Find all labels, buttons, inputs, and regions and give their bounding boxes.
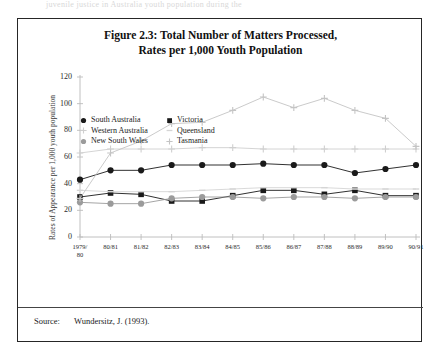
data-point [352, 146, 359, 153]
data-point [413, 194, 419, 200]
legend-item-queensland: Queensland [166, 126, 215, 137]
data-point [199, 194, 205, 200]
series-line [80, 97, 416, 198]
x-tick-label-part: 80 [77, 251, 84, 258]
source-note: Source:Wundersitz, J. (1993). [34, 316, 149, 326]
data-point [230, 162, 236, 168]
figure-title-line-1: Figure 2.3: Total Number of Matters Proc… [18, 28, 423, 43]
data-point [291, 162, 297, 168]
figure-page: juvenile justice in Australia youth popu… [0, 0, 439, 358]
figure-frame: Figure 2.3: Total Number of Matters Proc… [17, 18, 422, 342]
data-point [413, 162, 419, 168]
data-point [138, 192, 144, 198]
figure-title: Figure 2.3: Total Number of Matters Proc… [18, 28, 423, 58]
legend-label: Victoria [177, 115, 203, 126]
x-tick-label: 89/90 [370, 243, 400, 251]
data-point [352, 170, 358, 176]
series-line [80, 197, 416, 204]
legend-label: South Australia [91, 115, 141, 126]
y-tick-label: 100 [46, 99, 72, 108]
data-point [321, 146, 328, 153]
x-tick-label: 82/83 [157, 243, 187, 251]
plus-icon [166, 138, 173, 145]
x-tick-label-part: 1979/ [73, 243, 88, 250]
filled-circle-icon [80, 138, 87, 145]
running-head-text: juvenile justice in Australia youth popu… [0, 0, 439, 12]
data-point [107, 201, 113, 207]
data-point [382, 194, 388, 200]
data-point [229, 107, 236, 114]
legend-item-new-south-wales: New South Wales [80, 136, 148, 147]
data-point [77, 150, 84, 157]
data-point [321, 162, 327, 168]
data-point [352, 195, 358, 201]
data-point [260, 146, 267, 153]
figure-title-line-2: Rates per 1,000 Youth Population [18, 43, 423, 58]
source-citation: Wundersitz, J. (1993). [74, 316, 149, 326]
series-line [80, 148, 416, 153]
series-line [80, 188, 416, 192]
y-tick-label: 60 [46, 152, 72, 161]
x-tick-label: 88/89 [340, 243, 370, 251]
plus-icon [80, 127, 87, 134]
data-point [321, 95, 328, 102]
y-tick-label: 120 [46, 72, 72, 81]
dash-icon [166, 127, 173, 134]
legend-item-western-australia: Western Australia [80, 126, 148, 137]
legend-label: Tasmania [177, 136, 208, 147]
x-tick-label: 83/84 [187, 243, 217, 251]
data-point [382, 166, 388, 172]
series-tasmania [77, 94, 420, 202]
data-point [352, 107, 359, 114]
legend-column-1: South AustraliaWestern AustraliaNew Sout… [80, 115, 148, 147]
line-chart-plot [18, 71, 423, 303]
data-point [169, 195, 175, 201]
data-point [260, 94, 267, 101]
x-tick-label: 90/91 [401, 243, 431, 251]
y-tick-label: 0 [46, 232, 72, 241]
data-point [168, 146, 175, 153]
x-tick-label: 81/82 [126, 243, 156, 251]
data-point [138, 146, 145, 153]
data-point [321, 194, 327, 200]
legend-label: Queensland [177, 126, 215, 137]
chart-legend: South AustraliaWestern AustraliaNew Sout… [80, 115, 215, 147]
chart-area: Rates of Appearance per 1,000 youth popu… [18, 71, 423, 303]
data-point [169, 162, 175, 168]
data-point [229, 144, 236, 151]
legend-item-tasmania: Tasmania [166, 136, 215, 147]
data-point [107, 167, 113, 173]
data-point [290, 104, 297, 111]
y-tick-label: 20 [46, 205, 72, 214]
data-point [290, 146, 297, 153]
data-point [260, 161, 266, 167]
series-queensland [77, 188, 419, 192]
data-point [291, 194, 297, 200]
x-tick-label: 87/88 [309, 243, 339, 251]
data-point [260, 188, 266, 194]
legend-label: Western Australia [91, 126, 148, 137]
legend-item-south-australia: South Australia [80, 115, 148, 126]
data-point [77, 177, 83, 183]
filled-square-icon [166, 117, 173, 124]
source-label: Source: [34, 316, 74, 326]
x-tick-label: 84/85 [218, 243, 248, 251]
y-tick-label: 80 [46, 125, 72, 134]
x-tick-label: 85/86 [248, 243, 278, 251]
x-tick-label: 1979/80 [65, 243, 95, 259]
data-point [291, 188, 297, 194]
data-point [107, 150, 114, 157]
data-point [382, 146, 389, 153]
filled-circle-icon [80, 117, 87, 124]
x-tick-label: 80/81 [96, 243, 126, 251]
data-point [199, 162, 205, 168]
y-tick-label: 40 [46, 179, 72, 188]
data-point [260, 195, 266, 201]
series-new-south-wales [77, 194, 419, 207]
legend-column-2: VictoriaQueenslandTasmania [166, 115, 215, 147]
data-point [230, 194, 236, 200]
data-point [138, 167, 144, 173]
source-divider [18, 307, 423, 308]
legend-item-victoria: Victoria [166, 115, 215, 126]
series-line [80, 164, 416, 180]
